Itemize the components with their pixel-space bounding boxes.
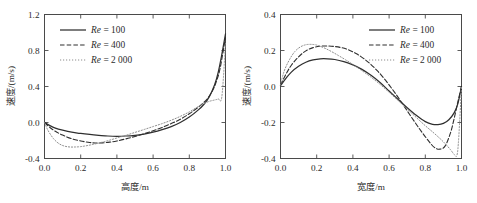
y-axis-label: 速度/(m/s) — [241, 66, 252, 106]
axis-ticks — [281, 15, 462, 159]
legend-label: Re= 100 — [399, 25, 434, 35]
chart-panel-right: 0.00.20.40.60.81.0-0.4-0.20.00.20.4 Re= … — [238, 0, 477, 203]
chart-panel-left: 0.00.20.40.60.81.0-0.40.00.40.81.2 Re= 1… — [0, 0, 238, 203]
legend-value: = 2 000 — [103, 55, 132, 65]
chart-right-svg: 0.00.20.40.60.81.0-0.4-0.20.00.20.4 Re= … — [238, 0, 477, 203]
legend-symbol: Re — [399, 40, 410, 50]
legend-value: = 400 — [412, 40, 434, 50]
chart-left-svg: 0.00.20.40.60.81.0-0.40.00.40.81.2 Re= 1… — [0, 0, 238, 203]
x-tick-label: 0.2 — [311, 163, 323, 173]
x-axis-label: 宽度/m — [357, 181, 385, 192]
legend-symbol: Re — [399, 25, 410, 35]
x-axis-label: 高度/m — [121, 181, 149, 192]
curve-dashed — [45, 37, 226, 143]
y-tick-label: -0.2 — [261, 118, 276, 128]
legend-label: Re= 2 000 — [90, 55, 132, 65]
y-tick-label: -0.4 — [25, 154, 40, 164]
legend-symbol: Re — [399, 55, 410, 65]
curve-solid — [281, 59, 462, 125]
y-tick-label: 0.4 — [28, 82, 40, 92]
x-tick-label: 0.4 — [347, 163, 359, 173]
y-tick-label: -0.4 — [261, 154, 276, 164]
legend-value: = 400 — [103, 40, 125, 50]
legend: Re= 100Re= 400Re= 2 000 — [369, 25, 441, 65]
x-tick-label: 0.0 — [275, 163, 287, 173]
x-tick-label: 0.2 — [75, 163, 87, 173]
legend-label: Re= 400 — [90, 40, 125, 50]
y-tick-label: 0.0 — [28, 118, 40, 128]
legend-value: = 2 000 — [412, 55, 441, 65]
plot-frame — [281, 15, 462, 159]
chart-left-plot-area: 0.00.20.40.60.81.0-0.40.00.40.81.2 Re= 1… — [5, 10, 232, 192]
y-tick-label: 0.8 — [28, 46, 40, 56]
x-tick-label: 0.0 — [39, 163, 51, 173]
legend-symbol: Re — [90, 25, 101, 35]
legend-value: = 100 — [412, 25, 434, 35]
x-tick-label: 1.0 — [456, 163, 468, 173]
legend-symbol: Re — [90, 55, 101, 65]
x-tick-label: 0.6 — [383, 163, 395, 173]
y-tick-label: 0.2 — [264, 46, 276, 56]
chart-right-plot-area: 0.00.20.40.60.81.0-0.4-0.20.00.20.4 Re= … — [241, 10, 468, 192]
legend-label: Re= 100 — [90, 25, 125, 35]
x-tick-label: 0.8 — [184, 163, 196, 173]
legend-label: Re= 2 000 — [399, 55, 441, 65]
y-tick-label: 0.4 — [264, 10, 276, 20]
legend-label: Re= 400 — [399, 40, 434, 50]
axis-tick-labels: 0.00.20.40.60.81.0-0.4-0.20.00.20.4 — [261, 10, 468, 173]
y-axis-label: 速度/(m/s) — [5, 66, 16, 106]
curve-dotted — [45, 43, 226, 147]
data-curves — [45, 34, 226, 147]
legend-symbol: Re — [90, 40, 101, 50]
legend-value: = 100 — [103, 25, 125, 35]
y-tick-label: 1.2 — [28, 10, 40, 20]
axis-tick-labels: 0.00.20.40.60.81.0-0.40.00.40.81.2 — [25, 10, 232, 173]
y-tick-label: 0.0 — [264, 82, 276, 92]
legend: Re= 100Re= 400Re= 2 000 — [60, 25, 132, 65]
curve-solid — [45, 34, 226, 136]
x-tick-label: 0.6 — [147, 163, 159, 173]
x-tick-label: 0.4 — [111, 163, 123, 173]
figure-container: 0.00.20.40.60.81.0-0.40.00.40.81.2 Re= 1… — [0, 0, 477, 203]
x-tick-label: 0.8 — [420, 163, 432, 173]
x-tick-label: 1.0 — [220, 163, 232, 173]
